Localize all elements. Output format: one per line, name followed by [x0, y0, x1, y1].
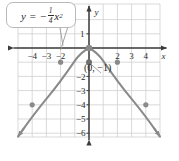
y-tick-label: 1 — [80, 29, 85, 39]
equation-fraction: 1 4 — [48, 7, 54, 24]
y-tick-label: −5 — [76, 114, 86, 124]
equation-lhs: y — [21, 10, 26, 22]
x-tick-labels: −4 −3 −2 2 3 4 — [27, 51, 148, 61]
y-axis-label: y — [94, 7, 99, 17]
y-tick-label: −3 — [76, 86, 86, 96]
parabola-figure: −4 −3 −2 2 3 4 1 −2 −3 −4 −5 −6 x y y = … — [0, 0, 179, 161]
fraction-denominator: 4 — [48, 17, 54, 25]
equation-text: y = − 1 4 x 2 — [7, 3, 77, 29]
point-annotation-label: (0, −1) — [84, 62, 111, 73]
y-tick-label: −6 — [76, 128, 86, 138]
y-tick-label: −4 — [76, 100, 86, 110]
y-tick-labels: 1 −2 −3 −4 −5 −6 — [76, 29, 86, 138]
x-axis-label: x — [161, 51, 166, 61]
x-tick-label: 2 — [115, 51, 120, 61]
x-tick-label: −2 — [56, 51, 66, 61]
point-marker — [143, 102, 148, 107]
equation-sign: − — [40, 10, 48, 22]
x-tick-label: 3 — [129, 51, 134, 61]
fraction-numerator: 1 — [48, 7, 54, 15]
point-marker — [86, 45, 92, 51]
callout-leader — [60, 28, 68, 50]
x-tick-label: 4 — [144, 51, 149, 61]
equation-callout: y = − 1 4 x 2 — [6, 2, 76, 28]
y-tick-label: −2 — [76, 72, 86, 82]
point-marker — [30, 102, 35, 107]
equation-equals: = — [29, 10, 37, 22]
x-tick-label: −3 — [42, 51, 52, 61]
x-tick-label: −4 — [27, 51, 37, 61]
